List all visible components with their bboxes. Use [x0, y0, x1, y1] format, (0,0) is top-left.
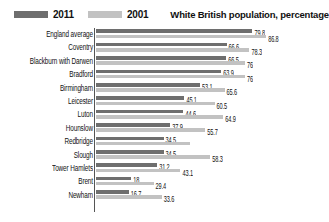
legend-item-2001: 2001: [88, 9, 148, 20]
category-label: England average: [1, 28, 93, 38]
category-label: Leicester: [1, 95, 93, 105]
bar-2001: [96, 48, 249, 52]
value-label-2001: 33.6: [164, 194, 175, 203]
chart-row: Slough34.558.3: [0, 149, 326, 162]
bar-2011: [96, 56, 226, 60]
category-label: Blackburn with Darwen: [1, 55, 93, 65]
legend-swatch-2011-icon: [14, 11, 48, 18]
category-label: Tower Hamlets: [1, 162, 93, 172]
bar-2011: [96, 190, 129, 194]
bar-group: 63.976: [96, 68, 326, 81]
category-label: Bradford: [1, 68, 93, 78]
bar-2001: [96, 155, 210, 159]
plot-area: England average79.886.8Coventry66.678.3B…: [0, 28, 326, 218]
bar-2001: [96, 169, 180, 173]
bar-group: 66.576: [96, 55, 326, 68]
bar-2011: [96, 163, 157, 167]
bar-2011: [96, 150, 164, 154]
bar-2001: [96, 128, 205, 132]
chart-title: White British population, percentage: [170, 9, 329, 20]
chart-row: Hounslow37.955.7: [0, 122, 326, 135]
legend-swatch-2001-icon: [88, 11, 122, 18]
bar-2011: [96, 43, 227, 47]
bar-2001: [96, 61, 245, 65]
chart-legend: 2011 2001 White British population, perc…: [0, 6, 326, 22]
chart-row: Bradford63.976: [0, 68, 326, 81]
chart-row: Leicester45.160.5: [0, 95, 326, 108]
bar-2001: [96, 182, 154, 186]
bar-group: 44.664.9: [96, 108, 326, 121]
bar-group: 66.678.3: [96, 41, 326, 54]
chart-row: Newham16.733.6: [0, 189, 326, 202]
legend-item-2011: 2011: [14, 9, 74, 20]
category-label: Birmingham: [1, 82, 93, 92]
bar-2001: [96, 102, 215, 106]
bar-2001: [96, 75, 245, 79]
bar-rows: England average79.886.8Coventry66.678.3B…: [0, 28, 326, 202]
category-label: Coventry: [1, 41, 93, 51]
bar-2011: [96, 70, 221, 74]
bar-2011: [96, 177, 131, 181]
bar-2011: [96, 83, 200, 87]
chart-row: Tower Hamlets31.243.1: [0, 162, 326, 175]
bar-group: 34.5: [96, 135, 326, 148]
bar-2011: [96, 110, 183, 114]
chart-row: Coventry66.678.3: [0, 41, 326, 54]
chart-row: Birmingham53.165.6: [0, 82, 326, 95]
bar-group: 37.955.7: [96, 122, 326, 135]
bar-group: 34.558.3: [96, 149, 326, 162]
bar-2001: [96, 195, 162, 199]
chart-row: Luton44.664.9: [0, 108, 326, 121]
bar-2001: [96, 142, 190, 146]
category-label: Brent: [1, 175, 93, 185]
category-label: Newham: [1, 189, 93, 199]
bar-2011: [96, 29, 252, 33]
bar-group: 45.160.5: [96, 95, 326, 108]
chart-row: Blackburn with Darwen66.576: [0, 55, 326, 68]
category-label: Slough: [1, 149, 93, 159]
bar-group: 1829.4: [96, 175, 326, 188]
bar-2011: [96, 123, 170, 127]
chart-row: Brent1829.4: [0, 175, 326, 188]
legend-label-2011: 2011: [53, 9, 74, 20]
category-label: Luton: [1, 108, 93, 118]
bar-group: 79.886.8: [96, 28, 326, 41]
bar-group: 16.733.6: [96, 189, 326, 202]
bar-2001: [96, 35, 266, 39]
chart-row: Redbridge34.5: [0, 135, 326, 148]
bar-2001: [96, 88, 225, 92]
bar-2001: [96, 115, 223, 119]
bar-2011: [96, 96, 184, 100]
chart-row: England average79.886.8: [0, 28, 326, 41]
bar-group: 31.243.1: [96, 162, 326, 175]
legend-label-2001: 2001: [127, 9, 148, 20]
category-label: Redbridge: [1, 135, 93, 145]
bar-group: 53.165.6: [96, 82, 326, 95]
bar-2011: [96, 137, 164, 141]
category-label: Hounslow: [1, 122, 93, 132]
